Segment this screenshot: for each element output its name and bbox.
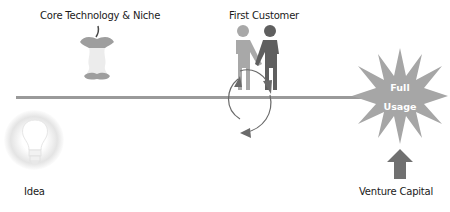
lightbulb-icon xyxy=(20,118,50,168)
first-customer-label: First Customer xyxy=(229,10,299,21)
full-usage-line1: Full xyxy=(380,78,420,97)
core-technology-label: Core Technology & Niche xyxy=(40,10,160,21)
apple-core-icon xyxy=(77,24,117,84)
idea-label: Idea xyxy=(24,186,45,197)
full-usage-label: Full Usage xyxy=(380,78,420,116)
venture-capital-label: Venture Capital xyxy=(359,186,433,197)
full-usage-line2: Usage xyxy=(380,97,420,116)
cycle-arrows-icon xyxy=(218,75,288,145)
timeline-line xyxy=(16,96,386,99)
arrow-up-icon xyxy=(387,149,413,179)
